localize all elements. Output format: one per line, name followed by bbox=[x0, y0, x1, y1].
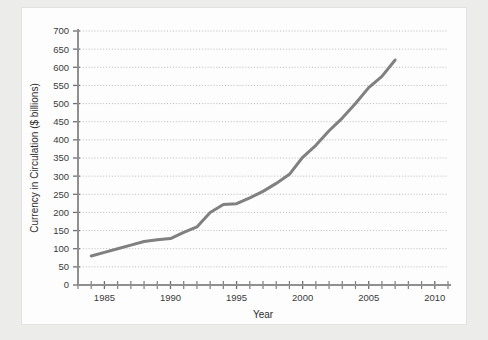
y-axis-tick-label: 100 bbox=[53, 243, 69, 254]
y-axis-tick-label: 550 bbox=[53, 80, 69, 91]
x-axis-tick-label: 1985 bbox=[94, 292, 115, 303]
x-axis-tick-labels-group: 198519901995200020052010 bbox=[94, 292, 445, 303]
y-axis-tick-label: 350 bbox=[53, 152, 69, 163]
x-axis-tick-label: 2005 bbox=[358, 292, 379, 303]
gridlines-group bbox=[80, 31, 448, 267]
y-axis-tick-label: 200 bbox=[53, 207, 69, 218]
y-axis-tick-label: 150 bbox=[53, 225, 69, 236]
chart-panel: 0501001502002503003504004505005506006507… bbox=[22, 8, 466, 324]
x-axis-tick-label: 2000 bbox=[292, 292, 313, 303]
y-axis-title: Currency in Circulation ($ billions) bbox=[29, 83, 40, 233]
x-axis-tick-label: 1990 bbox=[160, 292, 181, 303]
x-axis-tick-label: 2010 bbox=[424, 292, 445, 303]
line-chart: 0501001502002503003504004505005506006507… bbox=[22, 8, 466, 324]
x-axis-tick-label: 1995 bbox=[226, 292, 247, 303]
y-axis-tick-label: 300 bbox=[53, 171, 69, 182]
y-axis-tick-labels-group: 0501001502002503003504004505005506006507… bbox=[53, 25, 69, 290]
y-axis-tick-label: 700 bbox=[53, 25, 69, 36]
y-axis-tick-label: 400 bbox=[53, 134, 69, 145]
x-axis-title: Year bbox=[253, 309, 274, 320]
page-background: 0501001502002503003504004505005506006507… bbox=[0, 0, 488, 340]
y-axis-tick-label: 650 bbox=[53, 44, 69, 55]
y-axis-tick-label: 250 bbox=[53, 189, 69, 200]
y-axis-tick-label: 600 bbox=[53, 62, 69, 73]
y-axis-tick-label: 0 bbox=[64, 279, 69, 290]
y-axis-tick-label: 500 bbox=[53, 98, 69, 109]
y-axis-tick-label: 50 bbox=[58, 261, 69, 272]
y-axis-tick-label: 450 bbox=[53, 116, 69, 127]
chart-plot-area: 0501001502002503003504004505005506006507… bbox=[22, 8, 466, 324]
